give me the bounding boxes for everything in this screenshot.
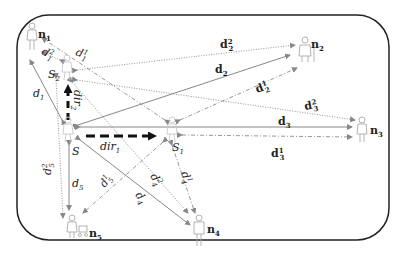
label-dir1: dir1 bbox=[100, 140, 120, 155]
label-d4-2: d24 bbox=[146, 171, 165, 189]
label-d2-2: d22 bbox=[220, 37, 234, 53]
label-n2: n2 bbox=[311, 38, 324, 53]
label-S2: S2 bbox=[48, 68, 61, 83]
label-n5: n5 bbox=[89, 227, 102, 242]
edge-d1-1 bbox=[42, 38, 165, 120]
label-d5: d5 bbox=[72, 177, 84, 192]
label-dir2: dir2 bbox=[69, 90, 84, 111]
edge-d2-1 bbox=[180, 68, 297, 120]
label-d3: d3 bbox=[278, 115, 291, 130]
label-S: S bbox=[72, 145, 80, 158]
label-d1-2: d21 bbox=[39, 45, 56, 64]
person-icon-n4 bbox=[194, 215, 204, 246]
label-d3-1: d13 bbox=[271, 146, 285, 162]
person-icon-S bbox=[63, 117, 73, 142]
person-icon-S2 bbox=[62, 55, 72, 80]
edge-d2-2 bbox=[77, 45, 295, 70]
edge-d3-1 bbox=[182, 135, 352, 137]
label-d5-1: d15 bbox=[97, 172, 116, 191]
label-n1: n1 bbox=[38, 28, 51, 43]
person-icon-n5 bbox=[67, 215, 88, 238]
label-n4: n4 bbox=[207, 223, 220, 238]
label-d1: d1 bbox=[33, 87, 45, 102]
label-S1: S1 bbox=[172, 141, 184, 156]
person-icon-n3 bbox=[357, 117, 367, 142]
person-icon-n1 bbox=[27, 23, 37, 50]
edges-from-S1 bbox=[42, 38, 352, 213]
label-d5-2: d25 bbox=[41, 162, 56, 175]
label-d2: d2 bbox=[215, 63, 228, 78]
localization-diagram: n1 n2 n3 n4 n5 S S1 S2 d1 d2 d3 d4 d5 d1… bbox=[0, 0, 403, 255]
label-n3: n3 bbox=[370, 124, 383, 139]
edges-from-S bbox=[30, 55, 352, 225]
edge-d5-2 bbox=[56, 78, 63, 218]
person-icon-S1 bbox=[167, 117, 177, 142]
edges-from-S2 bbox=[42, 45, 355, 218]
label-d3-2: d23 bbox=[303, 97, 319, 115]
label-d1-1: d11 bbox=[73, 46, 89, 64]
label-d4-1: d14 bbox=[176, 170, 194, 186]
